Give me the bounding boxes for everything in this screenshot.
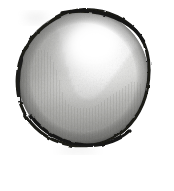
sphere-drawing <box>0 0 174 191</box>
sketch-canvas: Pencil sketch of a shaded sphere Hand-dr… <box>0 0 174 191</box>
outline-gap <box>16 97 20 101</box>
